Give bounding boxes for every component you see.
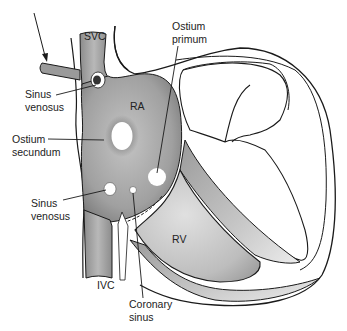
label-ostium-primum-line1: Ostium <box>172 20 205 32</box>
label-ra: RA <box>130 100 145 112</box>
sinus-venosus-lower-defect <box>104 183 116 196</box>
label-sinus-venosus-upper-line1: Sinus <box>25 88 51 100</box>
heart-diagram: SVC Sinus venosus RA Ostium secundum Sin… <box>0 0 347 331</box>
svc-outer-wall-right <box>114 26 128 70</box>
label-ostium-secundum-line2: secundum <box>12 146 60 158</box>
label-rv: RV <box>172 233 186 245</box>
label-coronary-sinus-line2: sinus <box>129 311 154 323</box>
label-ostium-secundum-line1: Ostium <box>12 133 45 145</box>
heart-illustration <box>0 0 347 331</box>
label-sinus-venosus-lower-line1: Sinus <box>31 197 57 209</box>
sinus-venosus-upper-defect <box>93 76 101 85</box>
label-svc: SVC <box>84 30 106 42</box>
inferior-vena-cava <box>84 210 112 278</box>
label-ostium-primum-line2: primum <box>172 33 207 45</box>
label-sinus-venosus-lower-line2: venosus <box>31 210 70 222</box>
arrow-head-icon <box>42 53 48 62</box>
label-sinus-venosus-upper-line2: venosus <box>25 101 64 113</box>
ostium-secundum-defect <box>112 122 133 150</box>
arrow-shaft <box>34 13 45 56</box>
coronary-sinus-opening <box>130 187 137 194</box>
eustachian-ridge <box>118 212 128 280</box>
label-ivc: IVC <box>97 279 115 291</box>
label-coronary-sinus-line1: Coronary <box>129 298 172 310</box>
